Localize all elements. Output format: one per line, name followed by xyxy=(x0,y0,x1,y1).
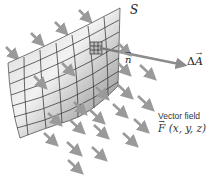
field-symbol: F xyxy=(158,122,165,134)
normal-label: n xyxy=(125,54,131,65)
diagram-graphics xyxy=(0,0,214,180)
normal-symbol: n xyxy=(125,54,131,65)
flux-diagram: S n ΔA Vector field F (x, y, z) xyxy=(0,0,214,180)
surface-label: S xyxy=(130,3,138,17)
surface-s xyxy=(8,8,120,138)
delta-symbol: Δ xyxy=(187,55,195,68)
vector-field-label: F (x, y, z) xyxy=(158,122,206,134)
area-element-label: ΔA xyxy=(187,55,203,68)
area-vector-symbol: A xyxy=(195,55,203,68)
field-arguments: (x, y, z) xyxy=(165,122,206,134)
